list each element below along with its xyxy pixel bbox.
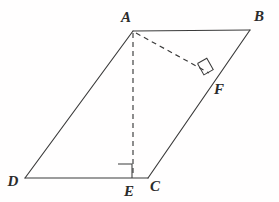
segment-da: [25, 31, 133, 178]
right-angle-marker-e: [118, 164, 132, 178]
vertex-label-e: E: [123, 183, 134, 199]
geometry-canvas: A B C D E F: [0, 0, 279, 202]
vertex-label-b: B: [253, 8, 264, 24]
vertex-label-a: A: [120, 9, 131, 25]
segment-bc: [148, 30, 250, 178]
right-angle-marker-f: [198, 58, 214, 75]
vertex-label-d: D: [7, 173, 19, 189]
geometry-figure: A B C D E F: [0, 0, 279, 202]
segment-af-altitude: [136, 33, 209, 73]
vertex-label-f: F: [213, 81, 224, 97]
vertex-label-c: C: [150, 178, 161, 194]
segment-ab: [133, 30, 250, 31]
